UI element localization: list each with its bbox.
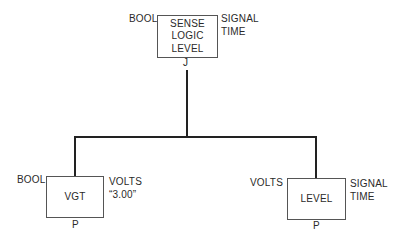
left-child-right-label: VOLTS “3.00”: [109, 176, 142, 201]
right-child-bottom-label: P: [313, 220, 320, 233]
root-bottom-label: J: [183, 57, 188, 70]
root-node-box: SENSE LOGIC LEVEL: [157, 15, 218, 58]
right-child-label: LEVEL: [300, 193, 332, 206]
left-branch-line: [74, 136, 76, 177]
root-node-label: SENSE LOGIC LEVEL: [170, 18, 205, 56]
right-child-box: LEVEL: [287, 178, 346, 220]
right-branch-line: [315, 136, 317, 179]
left-child-bottom-label: P: [72, 219, 79, 232]
root-stem-line: [186, 70, 188, 138]
right-child-right-label: SIGNAL TIME: [350, 178, 388, 203]
left-child-box: VGT: [46, 176, 104, 218]
root-left-label: BOOL: [129, 13, 158, 26]
root-right-label: SIGNAL TIME: [221, 13, 259, 38]
left-child-left-label: BOOL: [17, 174, 46, 187]
left-child-label: VGT: [64, 191, 85, 204]
right-child-left-label: VOLTS: [250, 177, 283, 190]
horizontal-branch-line: [74, 136, 317, 138]
